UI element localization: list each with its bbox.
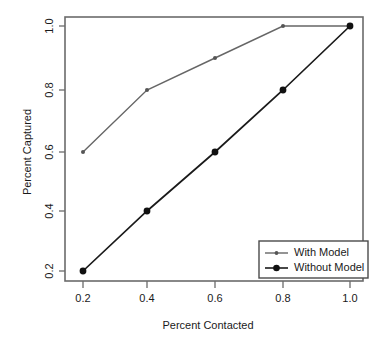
- data-point: [144, 208, 151, 215]
- y-axis-tick-labels: 1.0 0.8 0.6 0.4 0.2: [43, 18, 55, 278]
- data-point: [281, 24, 285, 28]
- y-axis-title: Percent Captured: [21, 109, 33, 195]
- data-point: [213, 56, 217, 60]
- x-tick-label: 0.6: [207, 292, 222, 304]
- chart-container: 1.0 0.8 0.6 0.4 0.2 Percent Captured 0.2…: [0, 0, 385, 350]
- x-axis-tick-labels: 0.2 0.4 0.6 0.8 1.0: [75, 292, 357, 304]
- data-point: [347, 23, 354, 30]
- series-line: [83, 26, 350, 152]
- data-point: [212, 149, 219, 156]
- data-point: [145, 88, 149, 92]
- x-axis-ticks: [83, 281, 350, 288]
- data-point: [80, 268, 87, 275]
- y-tick-label: 0.2: [43, 263, 55, 278]
- y-tick-label: 0.6: [43, 144, 55, 159]
- y-axis-ticks: [59, 26, 65, 271]
- chart-legend: With Model Without Model: [259, 241, 368, 278]
- legend-marker-without-model: [273, 265, 280, 272]
- legend-label-without-model: Without Model: [294, 261, 364, 273]
- series-with-model: [81, 24, 352, 154]
- data-series-layer: [80, 23, 354, 275]
- series-without-model: [80, 23, 354, 275]
- legend-marker-with-model: [275, 251, 279, 255]
- x-tick-label: 0.2: [75, 292, 90, 304]
- series-line: [83, 26, 350, 271]
- x-tick-label: 0.4: [139, 292, 154, 304]
- x-axis-title: Percent Contacted: [162, 319, 253, 331]
- legend-label-with-model: With Model: [294, 246, 349, 258]
- x-tick-label: 1.0: [342, 292, 357, 304]
- data-point: [280, 87, 287, 94]
- y-tick-label: 0.8: [43, 82, 55, 97]
- x-tick-label: 0.8: [275, 292, 290, 304]
- y-tick-label: 1.0: [43, 18, 55, 33]
- line-chart: 1.0 0.8 0.6 0.4 0.2 Percent Captured 0.2…: [0, 0, 385, 350]
- data-point: [81, 150, 85, 154]
- y-tick-label: 0.4: [43, 203, 55, 218]
